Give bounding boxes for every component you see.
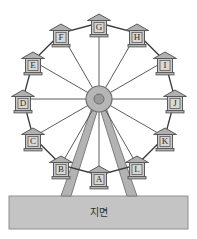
cabin-roof-h	[126, 24, 149, 31]
cabin-base-a	[90, 187, 108, 189]
cabin-k[interactable]: K	[154, 128, 177, 151]
cabin-label-l: L	[134, 164, 140, 174]
cabin-roof-f	[50, 24, 73, 31]
cabin-base-k	[156, 149, 174, 151]
cabin-base-h	[128, 45, 146, 47]
cabin-label-i: I	[164, 60, 167, 70]
cabin-e[interactable]: E	[22, 52, 45, 75]
cabin-base-c	[24, 149, 42, 151]
cabin-c[interactable]: C	[22, 128, 45, 151]
cabin-base-j	[166, 111, 184, 113]
cabin-roof-c	[22, 128, 45, 135]
cabin-label-f: F	[58, 32, 63, 42]
cabin-label-k: K	[162, 136, 169, 146]
cabin-base-e	[24, 73, 42, 75]
cabin-j[interactable]: J	[164, 90, 187, 113]
cabin-base-b	[52, 177, 70, 179]
cabin-i[interactable]: I	[154, 52, 177, 75]
diagram-canvas: ABCDEFGHIJKL지면	[0, 0, 197, 239]
cabin-f[interactable]: F	[50, 24, 73, 47]
cabin-label-g: G	[96, 22, 103, 32]
cabin-label-b: B	[58, 164, 64, 174]
cabin-roof-a	[88, 166, 111, 173]
cabin-base-d	[14, 111, 32, 113]
cabin-label-c: C	[30, 136, 36, 146]
cabin-base-l	[128, 177, 146, 179]
cabin-a[interactable]: A	[88, 166, 111, 189]
cabin-base-g	[90, 35, 108, 37]
cabin-roof-d	[12, 90, 35, 97]
cabin-h[interactable]: H	[126, 24, 149, 47]
cabin-label-d: D	[20, 98, 27, 108]
cabin-roof-j	[164, 90, 187, 97]
hub-core	[94, 94, 104, 104]
cabin-label-j: J	[173, 98, 177, 108]
cabin-base-i	[156, 73, 174, 75]
ground-label: 지면	[90, 207, 108, 218]
wheel-hub	[86, 86, 112, 112]
cabin-d[interactable]: D	[12, 90, 35, 113]
cabin-label-h: H	[134, 32, 141, 42]
cabin-roof-g	[88, 14, 111, 21]
cabin-label-e: E	[30, 60, 36, 70]
cabin-base-f	[52, 45, 70, 47]
ferris-wheel-diagram: ABCDEFGHIJKL지면	[0, 0, 197, 239]
cabin-roof-k	[154, 128, 177, 135]
cabin-label-a: A	[96, 174, 103, 184]
